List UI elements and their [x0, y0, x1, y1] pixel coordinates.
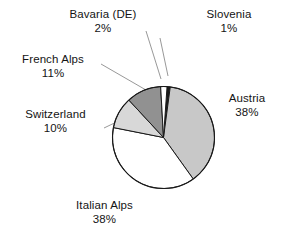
pie-label-slovenia-name: Slovenia: [188, 8, 270, 22]
pie-label-italian-alps-value: 38%: [48, 213, 161, 227]
pie-label-austria-name: Austria: [214, 92, 280, 106]
pie-label-italian-alps: Italian Alps 38%: [48, 199, 161, 226]
pie-label-austria-value: 38%: [214, 106, 280, 120]
pie-label-italian-alps-name: Italian Alps: [48, 199, 161, 213]
pie-label-slovenia-value: 1%: [188, 22, 270, 36]
pie-label-french-alps-value: 11%: [4, 67, 102, 81]
pie-label-switzerland-value: 10%: [2, 122, 109, 136]
pie-label-austria: Austria 38%: [214, 92, 280, 119]
pie-label-french-alps-name: French Alps: [4, 53, 102, 67]
pie-label-bavaria-value: 2%: [51, 22, 155, 36]
leader-line-bavaria: [146, 31, 161, 79]
leader-line-slovenia: [160, 38, 168, 76]
pie-chart: Bavaria (DE) 2% Slovenia 1% French Alps …: [0, 0, 283, 244]
leader-line-french-alps: [101, 64, 146, 90]
pie-label-switzerland: Switzerland 10%: [2, 108, 109, 135]
pie-label-bavaria-name: Bavaria (DE): [51, 8, 155, 22]
pie-label-switzerland-name: Switzerland: [2, 108, 109, 122]
pie-label-slovenia: Slovenia 1%: [188, 8, 270, 35]
pie-label-french-alps: French Alps 11%: [4, 53, 102, 80]
pie-label-bavaria: Bavaria (DE) 2%: [51, 8, 155, 35]
